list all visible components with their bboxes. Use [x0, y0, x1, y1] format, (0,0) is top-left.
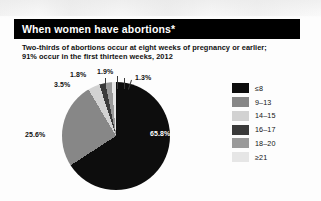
- leader-line-16-17: [117, 76, 118, 89]
- chart-subtitle: Two-thirds of abortions occur at eight w…: [22, 43, 302, 62]
- legend-swatch-21-plus: [232, 152, 249, 162]
- subtitle-line-2: 91% occur in the first thirteen weeks, 2…: [22, 52, 302, 61]
- subtitle-line-1: Two-thirds of abortions occur at eight w…: [22, 43, 267, 52]
- chart-title-bar: When women have abortions*: [14, 19, 300, 39]
- legend-swatch-18-20: [232, 138, 249, 148]
- legend-label-16-17: 16–17: [255, 125, 276, 134]
- legend-item-9-13: 9–13: [232, 96, 312, 109]
- slice-label-9-13: 25.6%: [25, 131, 45, 138]
- legend-item-16-17: 16–17: [232, 123, 312, 136]
- slice-label-21-plus: 1.3%: [135, 74, 151, 81]
- legend-item-14-15: 14–15: [232, 110, 312, 123]
- legend-swatch-14-15: [232, 111, 249, 121]
- chart-area: 65.8% 25.6% 3.5% 1.8% 1.9% 1.3% ≤8 9–13 …: [0, 66, 321, 201]
- infographic-sheet: When women have abortions* Two-thirds of…: [0, 0, 321, 201]
- legend-swatch-16-17: [232, 125, 249, 135]
- scan-artifact-top: [0, 0, 321, 16]
- slice-label-14-15: 3.5%: [54, 81, 70, 88]
- legend-swatch-8-or-less: [232, 83, 249, 93]
- slice-label-8-or-less: 65.8%: [150, 130, 170, 137]
- legend-item-8-or-less: ≤8: [232, 82, 312, 95]
- slice-label-18-20: 1.9%: [97, 68, 113, 75]
- legend-item-21-plus: ≥21: [232, 151, 312, 164]
- legend-swatch-9-13: [232, 97, 249, 107]
- legend-label-8-or-less: ≤8: [255, 84, 263, 93]
- leader-line-18-20: [124, 78, 125, 89]
- slice-label-16-17: 1.8%: [70, 71, 86, 78]
- legend-label-9-13: 9–13: [255, 98, 271, 107]
- chart-legend: ≤8 9–13 14–15 16–17 18–20 ≥21: [232, 82, 312, 165]
- leader-line-14-15: [105, 78, 106, 90]
- legend-label-18-20: 18–20: [255, 139, 276, 148]
- legend-label-21-plus: ≥21: [255, 153, 267, 162]
- legend-label-14-15: 14–15: [255, 111, 276, 120]
- legend-item-18-20: 18–20: [232, 137, 312, 150]
- page-title: When women have abortions*: [14, 23, 175, 35]
